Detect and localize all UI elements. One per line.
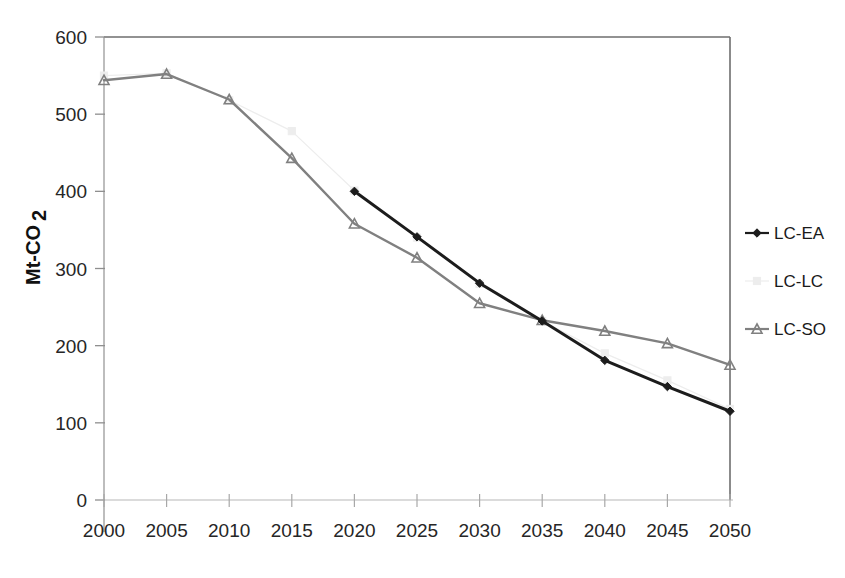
y-axis-tick-label: 200 [55, 336, 87, 357]
y-axis-tick-label: 600 [55, 27, 87, 48]
x-axis-tick-label: 2030 [458, 520, 500, 541]
y-axis-tick-label: 100 [55, 413, 87, 434]
legend-label-lc-so: LC-SO [774, 320, 826, 339]
y-axis-tick-label: 500 [55, 104, 87, 125]
legend-item-lc-ea[interactable]: LC-EA [745, 224, 825, 243]
y-axis-tick-label: 0 [76, 490, 87, 511]
legend-marker-lc-lc [753, 277, 760, 284]
emissions-line-chart: 0100200300400500600200020052010201520202… [0, 0, 845, 578]
x-axis-tick-label: 2010 [208, 520, 250, 541]
y-axis-title: Mt-CO2 [22, 210, 50, 285]
chart-container: 0100200300400500600200020052010201520202… [0, 0, 845, 578]
x-axis-tick-label: 2050 [709, 520, 751, 541]
y-axis-title-subscript: 2 [28, 210, 50, 221]
x-axis-tick-label: 2045 [646, 520, 688, 541]
legend: LC-EALC-LCLC-SO [745, 224, 826, 339]
x-axis-tick-label: 2020 [333, 520, 375, 541]
legend-marker-lc-ea [753, 229, 761, 237]
x-axis-tick-label: 2040 [584, 520, 626, 541]
legend-item-lc-lc[interactable]: LC-LC [745, 272, 823, 291]
legend-label-lc-lc: LC-LC [774, 272, 823, 291]
y-axis-title-text: Mt-CO [22, 225, 44, 285]
series-line-lc-so [104, 74, 730, 365]
data-point-lc-lc-2015 [288, 128, 295, 135]
x-axis-tick-label: 2000 [83, 520, 125, 541]
legend-item-lc-so[interactable]: LC-SO [745, 320, 826, 339]
x-axis-tick-label: 2015 [271, 520, 313, 541]
series-lc-ea [350, 187, 734, 415]
y-axis-tick-label: 300 [55, 259, 87, 280]
y-axis-tick-label: 400 [55, 181, 87, 202]
x-axis-tick-label: 2025 [396, 520, 438, 541]
series-line-lc-ea [354, 191, 730, 411]
x-axis-tick-label: 2005 [145, 520, 187, 541]
legend-label-lc-ea: LC-EA [774, 224, 825, 243]
x-axis-tick-label: 2035 [521, 520, 563, 541]
series-lc-so [99, 69, 735, 369]
